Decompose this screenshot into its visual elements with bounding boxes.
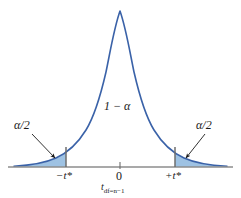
alpha-over-two-right-label: α/2 <box>196 119 212 131</box>
x-axis-title: tdf=n−1 <box>101 182 125 195</box>
tick-label-zero: 0 <box>116 170 122 182</box>
tick-label-positive-t-star: +t* <box>165 170 181 181</box>
x-axis-title-subscript: df=n−1 <box>104 187 125 195</box>
confidence-level-label: 1 − α <box>104 100 130 112</box>
tick-label-negative-t-star: −t* <box>56 170 72 181</box>
alpha-over-two-left-label: α/2 <box>14 119 30 131</box>
